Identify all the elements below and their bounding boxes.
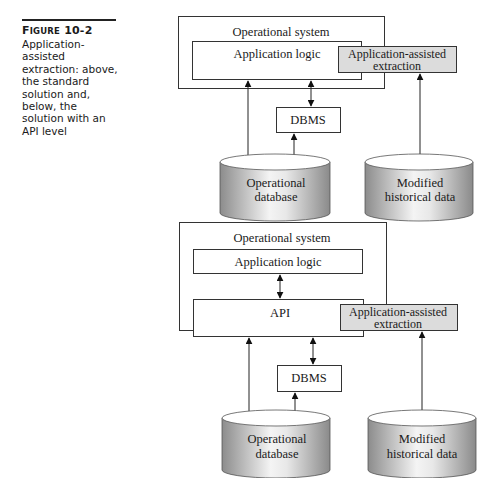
operational-system-label: Operational system [233, 25, 330, 39]
api-label: API [270, 306, 290, 320]
extraction-label-line2: extraction [373, 59, 421, 73]
op-db-label-line1: Operational [246, 176, 306, 190]
operational-database-cylinder: Operational database [222, 410, 330, 478]
historical-data-cylinder: Modified historical data [368, 410, 476, 478]
operational-system-label: Operational system [234, 231, 331, 245]
hist-label-line2: historical data [387, 447, 458, 461]
operational-database-cylinder: Operational database [220, 154, 330, 221]
historical-data-cylinder: Modified historical data [365, 154, 473, 221]
application-logic-label: Application logic [234, 255, 322, 269]
dbms-label: DBMS [291, 371, 326, 385]
hist-label-line1: Modified [399, 432, 446, 446]
application-logic-label: Application logic [233, 47, 321, 61]
top-diagram: Operational system Application logic App… [179, 17, 474, 222]
extraction-label-line2: extraction [374, 317, 422, 331]
op-db-label-line2: database [255, 447, 298, 461]
hist-label-line2: historical data [385, 190, 456, 204]
hist-label-line1: Modified [397, 176, 444, 190]
diagram-canvas: Operational system Application logic App… [0, 0, 496, 478]
op-db-label-line1: Operational [247, 432, 307, 446]
dbms-label: DBMS [290, 113, 325, 127]
bottom-diagram: Operational system Application logic API… [180, 223, 477, 478]
op-db-label-line2: database [254, 190, 297, 204]
